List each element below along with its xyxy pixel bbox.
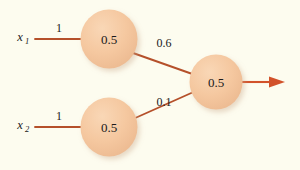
weight-label-h2-output: 0.1 [157,95,172,109]
weight-label-x2-h2: 1 [56,109,62,123]
hidden-node-2-value: 0.5 [101,120,117,135]
diagram-canvas: 0.5 0.5 0.5 x 1 x 2 1 1 0.6 0.1 [0,0,300,170]
input-label-x1-subscript: 1 [25,36,29,46]
output-node-value: 0.5 [208,75,224,90]
input-label-x1-symbol: x [16,30,23,44]
output-arrow-head [269,77,285,88]
input-label-x2-symbol: x [16,118,23,132]
weight-label-h1-output: 0.6 [157,36,172,50]
input-label-x2-subscript: 2 [25,124,30,134]
weight-label-x1-h1: 1 [56,21,62,35]
neural-network-diagram: 0.5 0.5 0.5 x 1 x 2 1 1 0.6 0.1 [0,0,300,170]
edge-h1-to-output [133,53,198,76]
hidden-node-1-value: 0.5 [101,32,117,47]
